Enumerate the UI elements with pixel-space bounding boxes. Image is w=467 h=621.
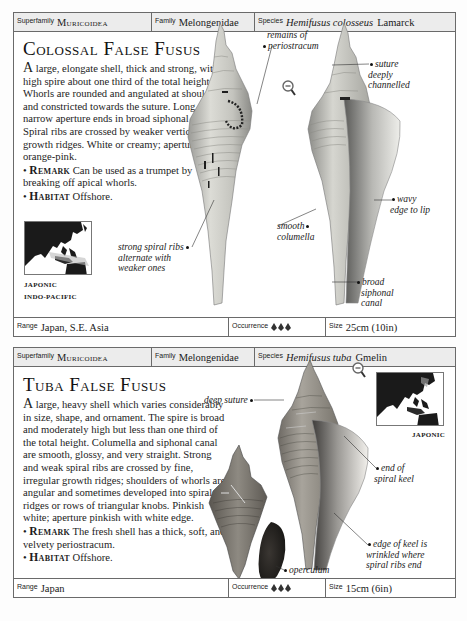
annotation-spiral-ribs: strong spiral ribs alternate with weaker…	[118, 242, 191, 274]
annotation-line: deep suture	[204, 395, 248, 405]
shell-apertural-view-image	[276, 358, 376, 573]
annotation-line: periostracum	[268, 41, 319, 51]
size-cell: Size 15cm (6in)	[326, 579, 455, 597]
pointer-dot	[263, 45, 266, 48]
pointer-dot	[284, 569, 287, 572]
family-label: Family	[155, 352, 176, 359]
pointer-dot	[376, 467, 379, 470]
range-label: Range	[17, 583, 38, 590]
range-value: Japan, S.E. Asia	[41, 322, 109, 333]
pointer-dot	[186, 246, 189, 249]
annotation-siphonal-canal: broad siphonal canal	[355, 277, 394, 309]
size-label: Size	[329, 583, 343, 590]
map-region-label: JAPONIC	[412, 431, 445, 439]
annotation-line: spiral keel	[374, 474, 414, 485]
size-cell: Size 25cm (10in)	[326, 318, 455, 336]
habitat-text: Offshore.	[70, 191, 113, 202]
shell-dorsal-view-image	[184, 21, 274, 311]
annotation-deep-suture: deep suture	[204, 395, 255, 406]
annotation-line: smooth	[277, 221, 304, 231]
pointer-dot	[368, 543, 371, 546]
range-footer: Range Japan, S.E. Asia Occurrence Size 2…	[14, 317, 455, 336]
annotation-line: edge of keel is	[373, 539, 427, 549]
annotation-line: end of	[381, 463, 404, 473]
annotation-line: strong spiral ribs	[118, 242, 184, 252]
occurrence-label: Occurrence	[232, 583, 268, 590]
pointer-dot	[306, 225, 309, 228]
range-value: Japan	[41, 583, 65, 594]
family-value: Melongenidae	[179, 352, 239, 363]
range-cell: Range Japan	[14, 579, 229, 597]
remark-label: Remark	[29, 525, 70, 537]
annotation-line: columella	[277, 232, 314, 243]
annotation-keel-edge: edge of keel is wrinkled where spiral ri…	[366, 539, 427, 571]
superfamily-cell: Superfamily Muricoidea	[14, 13, 152, 31]
pointer-dot	[392, 198, 395, 201]
occurrence-shell-icons	[271, 323, 291, 331]
annotation-line: remains of	[261, 30, 319, 41]
annotation-line: alternate with	[118, 253, 191, 264]
zoom-out-magnifier-icon[interactable]	[282, 80, 296, 96]
range-footer: Range Japan Occurrence Size 15cm (6in)	[14, 578, 455, 597]
annotation-line: operculum	[289, 565, 329, 575]
asia-map-icon	[25, 222, 92, 275]
species-title: Colossal False Fusus	[23, 38, 201, 60]
dropcap: A	[23, 396, 33, 411]
remark-label: Remark	[29, 164, 70, 176]
map-region-label: JAPONIC	[24, 281, 57, 289]
annotation-columella: smooth columella	[277, 221, 314, 242]
annotation-periostracum: remains of periostracum	[261, 30, 319, 51]
species-card-colossal-false-fusus: Superfamily Muricoidea Family Melongenid…	[13, 12, 456, 337]
habitat-text: Offshore.	[70, 552, 113, 563]
asia-map-icon	[377, 373, 444, 426]
annotation-line: broad	[362, 277, 384, 287]
range-label: Range	[17, 322, 38, 329]
annotation-line: wavy	[397, 194, 417, 204]
occurrence-cell: Occurrence	[229, 318, 326, 336]
family-cell: Family Melongenidae	[152, 348, 255, 366]
annotation-keel-end: end of spiral keel	[374, 463, 414, 484]
family-label: Family	[155, 17, 176, 24]
distribution-map	[24, 221, 92, 275]
annotation-line: weaker ones	[118, 263, 191, 274]
habitat-label: Habitat	[29, 190, 70, 202]
superfamily-value: Muricoidea	[57, 17, 108, 28]
map-region-label: INDO-PACIFIC	[24, 293, 77, 301]
superfamily-cell: Superfamily Muricoidea	[14, 348, 152, 366]
superfamily-label: Superfamily	[17, 352, 54, 359]
superfamily-label: Superfamily	[17, 17, 54, 24]
annotation-line: spiral ribs end	[366, 560, 427, 571]
size-value: 15cm (6in)	[346, 583, 392, 594]
occurrence-label: Occurrence	[232, 322, 268, 329]
annotation-line: edge to lip	[390, 205, 430, 216]
species-card-tuba-false-fusus: Superfamily Muricoidea Family Melongenid…	[13, 347, 456, 598]
description-text: large, heavy shell which varies consider…	[23, 399, 225, 523]
annotation-line: deeply	[368, 70, 410, 81]
species-title: Tuba False Fusus	[23, 374, 166, 396]
annotation-line: canal	[355, 298, 394, 309]
annotation-line: channelled	[368, 80, 410, 91]
dropcap: A	[23, 60, 33, 75]
annotation-wavy-edge: wavy edge to lip	[390, 194, 430, 215]
pointer-dot	[250, 399, 253, 402]
annotation-line: suture	[375, 59, 398, 69]
distribution-map	[376, 372, 444, 426]
size-label: Size	[329, 322, 343, 329]
pointer-dot	[357, 281, 360, 284]
habitat-label: Habitat	[29, 551, 70, 563]
occurrence-cell: Occurrence	[229, 579, 326, 597]
size-value: 25cm (10in)	[346, 322, 398, 333]
species-description: A large, heavy shell which varies consid…	[23, 398, 228, 565]
annotation-suture: suture deeply channelled	[368, 59, 410, 91]
occurrence-shell-icons	[271, 584, 291, 592]
annotation-line: siphonal	[355, 288, 394, 299]
pointer-dot	[370, 63, 373, 66]
zoom-out-magnifier-icon[interactable]	[352, 362, 366, 378]
annotation-operculum: operculum	[282, 565, 329, 576]
range-cell: Range Japan, S.E. Asia	[14, 318, 229, 336]
annotation-line: wrinkled where	[366, 550, 427, 561]
classification-header: Superfamily Muricoidea Family Melongenid…	[14, 348, 455, 367]
superfamily-value: Muricoidea	[57, 352, 108, 363]
